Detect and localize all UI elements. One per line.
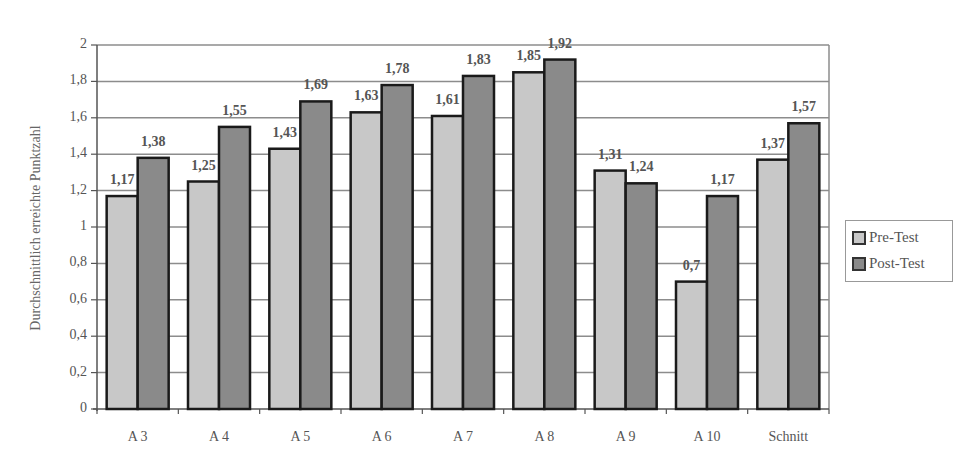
data-label: 1,83 [454, 52, 504, 68]
data-label: 1,17 [698, 172, 748, 188]
data-label: 1,78 [372, 61, 422, 77]
x-category-label: A 7 [423, 429, 503, 445]
legend: Pre-Test Post-Test [845, 220, 953, 282]
bar-post-test [300, 101, 331, 409]
bar-post-test [707, 196, 738, 409]
x-category-label: A 5 [260, 429, 340, 445]
bar-post-test [544, 60, 575, 409]
x-category-label: A 4 [179, 429, 259, 445]
bar-pre-test [351, 112, 382, 409]
plot-area [0, 0, 977, 469]
bar-post-test [138, 158, 169, 409]
data-label: 0,7 [667, 258, 717, 274]
data-label: 1,25 [179, 158, 229, 174]
legend-label: Post-Test [869, 255, 925, 272]
y-tick-label: 1,8 [47, 72, 87, 88]
legend-item-post-test: Post-Test [852, 255, 925, 272]
bar-pre-test [107, 196, 138, 409]
bar-chart: 00,20,40,60,811,21,41,61,821,171,38A 31,… [0, 0, 977, 469]
pre-test-swatch-icon [852, 231, 866, 245]
bar-pre-test [595, 171, 626, 409]
bar-pre-test [188, 182, 219, 410]
bar-post-test [626, 183, 657, 409]
bar-pre-test [757, 160, 788, 409]
bar-pre-test [513, 72, 544, 409]
bar-pre-test [676, 282, 707, 409]
x-category-label: A 8 [504, 429, 584, 445]
data-label: 1,17 [97, 172, 147, 188]
x-category-label: A 9 [586, 429, 666, 445]
y-tick-label: 0,2 [47, 364, 87, 380]
y-tick-label: 0,8 [47, 254, 87, 270]
data-label: 1,24 [616, 159, 666, 175]
x-category-label: A 3 [98, 429, 178, 445]
data-label: 1,55 [210, 103, 260, 119]
data-label: 1,92 [535, 36, 585, 52]
data-label: 1,63 [341, 88, 391, 104]
x-category-label: Schnitt [748, 429, 828, 445]
bar-post-test [463, 76, 494, 409]
post-test-swatch-icon [852, 257, 866, 271]
y-tick-label: 2 [47, 36, 87, 52]
bar-pre-test [269, 149, 300, 409]
y-tick-label: 0,4 [47, 327, 87, 343]
y-tick-label: 1,4 [47, 145, 87, 161]
y-tick-label: 1,6 [47, 109, 87, 125]
bar-post-test [788, 123, 819, 409]
bar-post-test [382, 85, 413, 409]
data-label: 1,69 [291, 77, 341, 93]
legend-item-pre-test: Pre-Test [852, 229, 919, 246]
y-tick-label: 0,6 [47, 291, 87, 307]
y-tick-label: 1 [47, 218, 87, 234]
y-tick-label: 0 [47, 400, 87, 416]
data-label: 1,61 [423, 92, 473, 108]
legend-label: Pre-Test [869, 229, 919, 246]
y-tick-label: 1,2 [47, 182, 87, 198]
x-category-label: A 10 [667, 429, 747, 445]
data-label: 1,57 [779, 99, 829, 115]
y-axis-title: Durchschnittlich erreichte Punktzahl [28, 125, 44, 330]
data-label: 1,43 [260, 125, 310, 141]
data-label: 1,37 [748, 136, 798, 152]
x-category-label: A 6 [342, 429, 422, 445]
bar-pre-test [432, 116, 463, 409]
data-label: 1,38 [128, 134, 178, 150]
